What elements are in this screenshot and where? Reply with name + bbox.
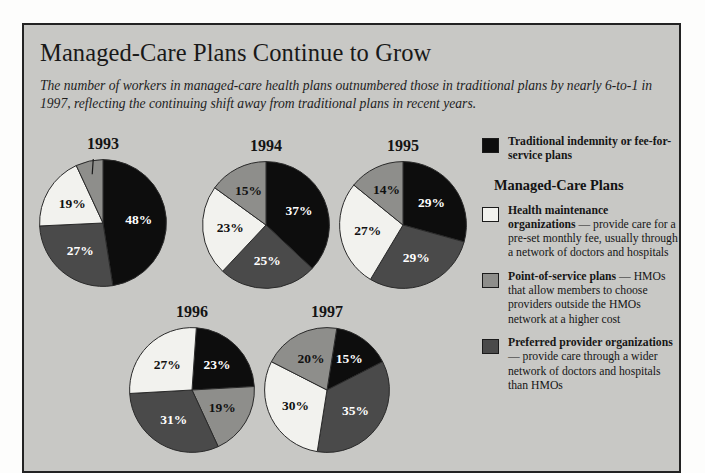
page-title: Managed-Care Plans Continue to Grow bbox=[40, 39, 431, 67]
legend-item-pos: Point-of-service plans — HMOs that allow… bbox=[482, 270, 678, 327]
pie-chart-1994: 199437%25%23%15% bbox=[202, 137, 330, 289]
legend-swatch-ppo bbox=[482, 339, 499, 354]
pie-slice-label-ppo: 31% bbox=[160, 412, 187, 428]
pie-year-label: 1995 bbox=[339, 137, 467, 155]
pie-slice-label-hmo: 27% bbox=[354, 223, 381, 239]
legend-swatch-hmo bbox=[482, 207, 499, 222]
legend-text-pos: Point-of-service plans — HMOs that allow… bbox=[508, 270, 678, 327]
pie-slice-label-ppo: 25% bbox=[254, 253, 281, 269]
legend-section-heading: Managed-Care Plans bbox=[494, 177, 678, 194]
pie-slice-label-hmo: 30% bbox=[282, 398, 309, 414]
legend-text-ppo: Preferred provider organizations — provi… bbox=[508, 336, 678, 393]
pie-slice-label-traditional: 37% bbox=[285, 203, 312, 219]
pie-chart-1995: 199529%29%27%14% bbox=[339, 137, 467, 289]
legend-item-hmo: Health maintenance organizations — provi… bbox=[482, 204, 678, 261]
pie-slice-label-hmo: 27% bbox=[154, 357, 181, 373]
legend-text-traditional: Traditional indemnity or fee-for-service… bbox=[508, 135, 678, 164]
pie-year-label: 1993 bbox=[39, 135, 167, 153]
pie-slice-label-hmo: 23% bbox=[217, 220, 244, 236]
pie-slice-label-hmo: 19% bbox=[59, 196, 86, 212]
pie-slice-label-traditional: 15% bbox=[336, 351, 363, 367]
pie-slice-label-ppo: 35% bbox=[342, 403, 369, 419]
page-subtitle: The number of workers in managed-care he… bbox=[40, 77, 666, 112]
pie-svg-1997 bbox=[264, 327, 390, 453]
pie-slice-label-pos: 20% bbox=[297, 351, 324, 367]
legend-item-ppo: Preferred provider organizations — provi… bbox=[482, 336, 678, 393]
pie-year-label: 1997 bbox=[264, 303, 390, 321]
legend-item-traditional: Traditional indemnity or fee-for-service… bbox=[482, 135, 678, 164]
pie-slice-label-pos: 15% bbox=[235, 183, 262, 199]
pie-slice-label-traditional: 48% bbox=[125, 212, 152, 228]
pie-slice-label-ppo: 27% bbox=[67, 243, 94, 259]
pie-slice-label-pos: 14% bbox=[373, 182, 400, 198]
pie-slice-label-traditional: 29% bbox=[418, 195, 445, 211]
legend-text-hmo: Health maintenance organizations — provi… bbox=[508, 204, 678, 261]
pie-year-label: 1996 bbox=[129, 303, 255, 321]
legend-term-ppo: Preferred provider organizations bbox=[508, 336, 673, 349]
pie-chart-1996: 199623%19%31%27% bbox=[129, 303, 255, 453]
pie-year-label: 1994 bbox=[202, 137, 330, 155]
legend-term-pos: Point-of-service plans bbox=[508, 270, 616, 283]
infographic-canvas: Managed-Care Plans Continue to Grow The … bbox=[24, 25, 679, 471]
chart-legend: Traditional indemnity or fee-for-service… bbox=[482, 135, 678, 402]
legend-swatch-pos bbox=[482, 273, 499, 288]
legend-term-traditional: Traditional indemnity or fee-for-service… bbox=[508, 135, 671, 162]
pie-slice-label-pos: 19% bbox=[209, 400, 236, 416]
pie-svg-1996 bbox=[129, 327, 255, 453]
pie-chart-1997: 199715%35%30%20% bbox=[264, 303, 390, 453]
infographic-frame: Managed-Care Plans Continue to Grow The … bbox=[22, 23, 681, 473]
pie-slice-label-traditional: 23% bbox=[204, 357, 231, 373]
pie-slice-label-ppo: 29% bbox=[403, 250, 430, 266]
legend-desc-ppo: — provide care through a wider network o… bbox=[508, 350, 661, 392]
legend-swatch-traditional bbox=[482, 138, 499, 153]
pie-chart-1993: 199348%27%19%7% bbox=[39, 135, 167, 287]
